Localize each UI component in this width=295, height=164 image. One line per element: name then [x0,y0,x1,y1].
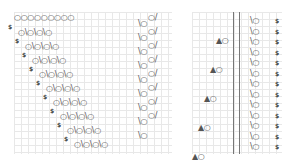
row-marker: $ [275,38,279,46]
lace-pattern: ○\○\○\○ [18,29,52,37]
row-marker: $ [275,28,279,36]
increase-symbol: ○/ [148,28,157,36]
decrease-symbol: \○ [138,104,147,112]
triangle-yarnover: ▲○ [192,153,205,161]
increase-symbol: ○/ [148,70,157,78]
row-marker: $ [275,133,279,141]
row-marker: $ [22,51,26,59]
row-marker: $ [275,122,279,130]
decrease-symbol: \○ [138,34,147,42]
decrease-symbol: \○ [138,20,147,28]
lace-pattern: ○\○\○\○ [39,71,73,79]
decrease-symbol: \○ [138,48,147,56]
row-marker: $ [36,79,40,87]
row-marker: $ [29,65,33,73]
decrease-symbol: \○ [250,80,259,88]
increase-symbol: ○/ [148,112,157,120]
row-marker: $ [275,80,279,88]
row-marker: $ [275,91,279,99]
decrease-symbol: \○ [250,28,259,36]
top-row-yarnovers: ○○○○○○○○○ [14,14,74,22]
lace-pattern: ○\○\○\○ [46,85,80,93]
decrease-symbol: \○ [250,91,259,99]
lace-pattern: ○\○\○\○ [60,113,94,121]
row-marker: $ [15,37,19,45]
decrease-symbol: \○ [138,76,147,84]
decrease-symbol: \○ [138,62,147,70]
decrease-symbol: \○ [250,101,259,109]
increase-symbol: ○/ [148,56,157,64]
lace-pattern: ○\○\○\○ [32,57,66,65]
triangle-yarnover: ▲○ [198,124,211,132]
decrease-symbol: \○ [138,118,147,126]
row-marker: $ [8,23,12,31]
row-marker: $ [275,70,279,78]
decrease-symbol: \○ [250,70,259,78]
decrease-symbol: \○ [138,90,147,98]
row-marker: $ [57,121,61,129]
row-marker: $ [275,59,279,67]
lace-pattern: ○\○\○\○ [53,99,87,107]
decrease-symbol: \○ [250,17,259,25]
row-marker: $ [64,135,68,143]
row-marker: $ [275,143,279,151]
row-marker: $ [43,93,47,101]
lace-pattern: ○\○\○\○ [25,43,59,51]
decrease-symbol: \○ [138,132,147,140]
row-marker: $ [275,49,279,57]
row-marker: $ [275,112,279,120]
triangle-yarnover: ▲○ [210,66,223,74]
triangle-yarnover: ▲○ [216,37,229,45]
decrease-symbol: \○ [250,133,259,141]
decrease-symbol: \○ [250,49,259,57]
decrease-symbol: \○ [250,59,259,67]
triangle-yarnover: ▲○ [204,95,217,103]
lace-pattern: ○\○\○\○ [67,127,101,135]
row-marker: $ [275,17,279,25]
row-marker: $ [50,107,54,115]
decrease-symbol: \○ [250,112,259,120]
increase-symbol: ○/ [148,84,157,92]
increase-symbol: ○/ [148,14,157,22]
decrease-symbol: \○ [250,143,259,151]
row-marker: $ [275,101,279,109]
decrease-symbol: \○ [250,38,259,46]
divider-line [233,12,234,154]
chart-grid-right [192,12,282,154]
decrease-symbol: \○ [250,122,259,130]
divider-line [239,12,240,154]
lace-pattern: ○\○\○\○ [74,141,108,149]
increase-symbol: ○/ [148,42,157,50]
increase-symbol: ○/ [148,98,157,106]
